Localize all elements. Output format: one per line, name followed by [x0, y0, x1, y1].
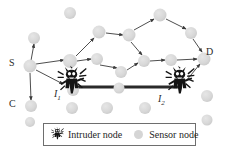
- sensor-node: [28, 32, 40, 44]
- sensor-node: [64, 7, 76, 19]
- sensor-node: [66, 102, 78, 114]
- sensor-node: [114, 83, 125, 94]
- sensor-node: [165, 54, 177, 66]
- edge-s-to-n3: [36, 60, 64, 64]
- label-i1: I1: [54, 89, 61, 102]
- edge-n4-to-n5: [106, 33, 123, 35]
- label-i2-subscript: 2: [161, 99, 165, 107]
- legend-label-intruder: Intruder node: [68, 129, 122, 140]
- sensor-node: [115, 66, 127, 78]
- sensor-node: [93, 26, 106, 39]
- edge-n5-to-n6: [134, 19, 154, 30]
- sensor-node: [91, 53, 103, 65]
- edge-n7-to-d: [193, 39, 202, 52]
- sensor-node: [123, 29, 136, 42]
- intruder-node-i2: [165, 66, 194, 94]
- sensor-node: [185, 27, 197, 39]
- sensor-node: [101, 102, 113, 114]
- label-s: S: [9, 58, 15, 68]
- edge-s-to-c: [30, 73, 31, 100]
- edge-n11-to-d: [177, 59, 197, 60]
- edge-n9-to-n10: [127, 63, 138, 70]
- legend: Intruder node Sensor node: [43, 123, 196, 146]
- edge-n3-to-n8: [77, 59, 91, 61]
- sensor-node: [138, 55, 150, 67]
- sensor-node: [201, 90, 213, 102]
- sensor-node: [63, 54, 77, 68]
- edge-n6-to-n7: [166, 19, 186, 29]
- sensor-node: [25, 117, 35, 127]
- legend-entry-sensor: Sensor node: [134, 129, 198, 140]
- label-d: D: [206, 47, 213, 57]
- sensor-nodes-group: [24, 7, 214, 127]
- network-diagram-figure: SCDI1I2 Intruder node Sensor node: [0, 0, 230, 154]
- sensor-node: [202, 115, 213, 126]
- edge-n3-to-n4: [76, 38, 94, 56]
- sensor-node: [139, 102, 151, 114]
- edge-n8-to-n9: [100, 65, 117, 68]
- sensor-node-c: [25, 100, 37, 112]
- edge-n5-to-n10: [131, 42, 142, 55]
- label-i2: I2: [158, 94, 165, 107]
- intruder-node-i1: [57, 66, 86, 94]
- sensor-dot-icon: [134, 130, 143, 139]
- legend-entry-intruder: Intruder node: [51, 126, 122, 144]
- intruder-icon: [51, 126, 64, 144]
- edge-n10-to-n11: [150, 60, 165, 61]
- sensor-node: [154, 9, 167, 22]
- source-node-s: [24, 60, 37, 73]
- legend-label-sensor: Sensor node: [149, 129, 198, 140]
- label-i1-subscript: 1: [57, 94, 61, 102]
- label-c: C: [9, 99, 16, 109]
